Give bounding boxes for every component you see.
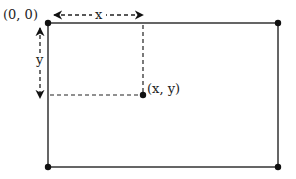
point-dot [140, 92, 146, 98]
x-label: x [95, 7, 103, 22]
point-label: (x, y) [147, 81, 180, 96]
corner-dot-top-right [275, 20, 281, 26]
corner-dot-bottom-right [275, 164, 281, 170]
y-label: y [35, 52, 44, 67]
corner-dot-bottom-left [45, 164, 51, 170]
coordinate-diagram: x y (x, y) (0, 0) [0, 0, 296, 179]
origin-label: (0, 0) [3, 7, 38, 22]
corner-dot-top-left [45, 20, 51, 26]
